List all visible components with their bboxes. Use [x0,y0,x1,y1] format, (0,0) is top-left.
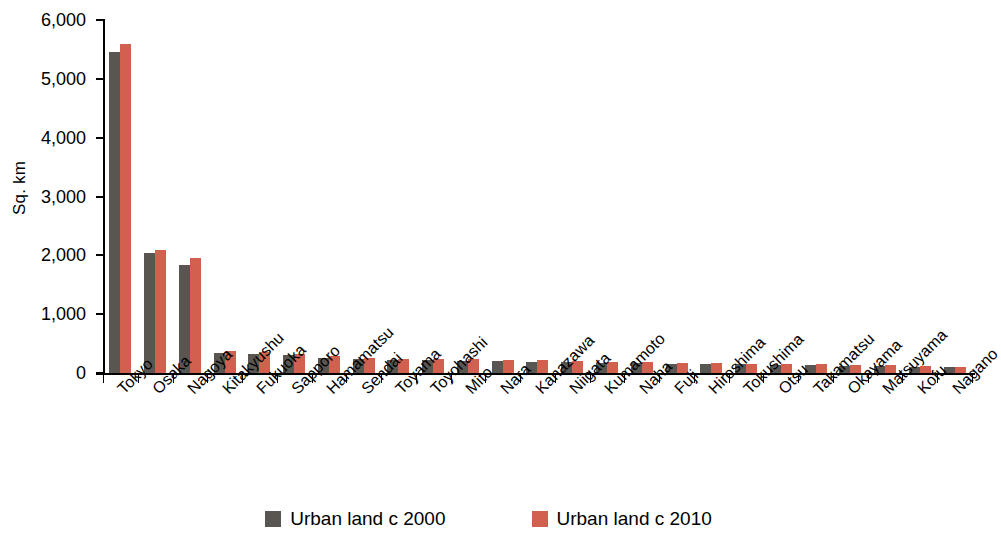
bar-group [937,20,972,373]
bar-group [312,20,347,373]
bar-group [173,20,208,373]
bar-group [451,20,486,373]
bar-group [833,20,868,373]
bar-group [346,20,381,373]
y-tick-label: 0 [0,364,86,382]
bar-group [381,20,416,373]
x-tick-mark [103,374,104,383]
legend-label: Urban land c 2010 [557,508,712,530]
bar-group [103,20,138,373]
bar [109,52,120,373]
bar-group [277,20,312,373]
bar-group [555,20,590,373]
bar-group [207,20,242,373]
y-tick-label: 4,000 [0,129,86,147]
bar-group [868,20,903,373]
plot-area [103,20,972,373]
bar-group [242,20,277,373]
bar-group [624,20,659,373]
legend-item[interactable]: Urban land c 2010 [532,508,712,530]
bar-group [138,20,173,373]
bar [492,361,503,373]
bar-group [590,20,625,373]
legend-item[interactable]: Urban land c 2000 [265,508,445,530]
bar-group [416,20,451,373]
bar-group [798,20,833,373]
bar [700,364,711,373]
y-tick-label: 6,000 [0,11,86,29]
bar-group [694,20,729,373]
legend-swatch [532,511,548,527]
legend-label: Urban land c 2000 [290,508,445,530]
y-tick-label: 5,000 [0,70,86,88]
bar-group [520,20,555,373]
legend-swatch [265,511,281,527]
bar [144,253,155,373]
bar [120,44,131,373]
bar-group [902,20,937,373]
y-tick-label: 3,000 [0,188,86,206]
bar-group [659,20,694,373]
bar-group [763,20,798,373]
chart-legend: Urban land c 2000Urban land c 2010 [0,508,977,530]
bar-group [729,20,764,373]
y-tick-label: 1,000 [0,305,86,323]
bar [155,250,166,373]
bar-group [485,20,520,373]
bar [190,258,201,373]
y-tick-label: 2,000 [0,246,86,264]
